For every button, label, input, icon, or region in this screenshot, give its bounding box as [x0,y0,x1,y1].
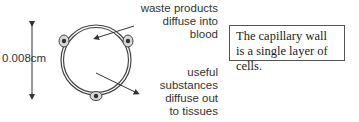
capillary-diagram: 0.008cm waste products diffuse into bloo… [0,0,220,122]
measurement-label: 0.008cm [2,52,46,64]
endothelial-cell [59,35,69,47]
useful-label-line: to tissues [140,105,218,118]
capillary-wall [59,25,133,101]
note-box: The capillary wall is a single layer of … [229,25,345,61]
waste-label-line: waste products [140,2,218,15]
nucleus-icon [126,39,130,43]
endothelial-cell [123,35,133,47]
waste-label-line: diffuse into [140,15,218,28]
nucleus-icon [94,94,98,98]
useful-label: useful substances diffuse out to tissues [140,66,218,118]
endothelial-cell [90,92,102,101]
useful-label-line: useful [140,66,218,79]
waste-label: waste products diffuse into blood [140,2,218,41]
useful-label-line: diffuse out [140,92,218,105]
nucleus-icon [62,39,66,43]
useful-arrow [96,73,137,93]
useful-label-line: substances [140,79,218,92]
waste-label-line: blood [140,28,218,41]
